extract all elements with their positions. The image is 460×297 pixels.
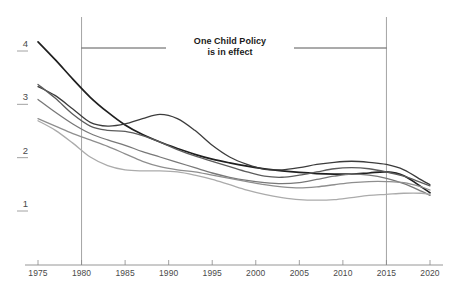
annotation-line-1: One Child Policy: [168, 36, 292, 47]
data-series-group: [38, 42, 430, 200]
y-tick-label-3: 3: [14, 91, 28, 102]
x-tick-label-1990: 1990: [152, 268, 186, 278]
x-tick-label-2010: 2010: [326, 268, 360, 278]
y-tick-label-2: 2: [14, 145, 28, 156]
fertility-rate-line-chart: One Child Policy is in effect 1975198019…: [0, 0, 460, 297]
y-tick-label-1: 1: [14, 198, 28, 209]
one-child-policy-annotation: One Child Policy is in effect: [168, 36, 292, 58]
line-series-a: [38, 42, 430, 193]
x-tick-label-1995: 1995: [195, 268, 229, 278]
x-tick-label-2020: 2020: [413, 268, 447, 278]
x-tick-label-2005: 2005: [282, 268, 316, 278]
y-tick-label-4: 4: [14, 38, 28, 49]
annotation-line-2: is in effect: [168, 47, 292, 58]
line-series-e: [38, 119, 430, 190]
x-axis-group: [25, 260, 443, 265]
line-series-c: [38, 84, 430, 185]
x-tick-label-1975: 1975: [21, 268, 55, 278]
x-tick-label-1985: 1985: [108, 268, 142, 278]
x-tick-label-1980: 1980: [65, 268, 99, 278]
line-series-f: [38, 121, 430, 200]
x-tick-label-2000: 2000: [239, 268, 273, 278]
x-tick-label-2015: 2015: [369, 268, 403, 278]
y-axis-ticks-group: [17, 51, 28, 211]
